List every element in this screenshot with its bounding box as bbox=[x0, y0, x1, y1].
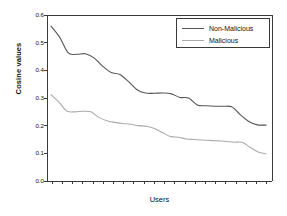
y-axis-title: Cosine values bbox=[14, 21, 23, 117]
legend-color-swatch bbox=[182, 28, 204, 29]
y-tick-label: 0.1 bbox=[22, 149, 44, 156]
y-tick-label: 0.6 bbox=[22, 11, 44, 18]
x-axis-title: Users bbox=[47, 195, 272, 204]
chart-legend: Non-Malicious Malicious bbox=[176, 18, 270, 48]
chart-figure: 0.00.10.20.30.40.50.6 Cosine values User… bbox=[0, 0, 287, 216]
y-tick-label: 0.0 bbox=[22, 177, 44, 184]
legend-color-swatch bbox=[182, 40, 204, 41]
legend-item-non-malicious: Non-Malicious bbox=[182, 22, 253, 34]
legend-item-malicious: Malicious bbox=[182, 34, 238, 46]
y-tick-label: 0.2 bbox=[22, 122, 44, 129]
y-tick-label: 0.4 bbox=[22, 66, 44, 73]
series-line-malicious bbox=[51, 95, 266, 154]
y-tick-label: 0.5 bbox=[22, 39, 44, 46]
legend-label: Malicious bbox=[209, 37, 238, 44]
legend-label: Non-Malicious bbox=[209, 25, 253, 32]
y-tick-label: 0.3 bbox=[22, 94, 44, 101]
